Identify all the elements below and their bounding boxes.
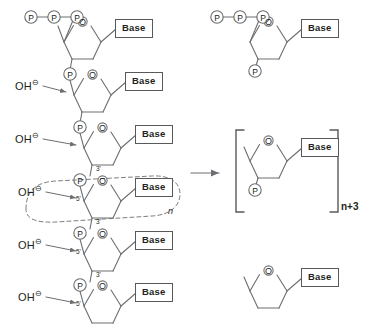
phosphate-gamma-label: P: [28, 13, 34, 23]
bond-3prime-5: [90, 271, 92, 282]
ring-oxygen-product-bottom: O: [265, 266, 272, 276]
repeat-unit-label: n: [168, 207, 173, 216]
hydroxide-label-1: OH⊖: [15, 79, 39, 92]
bond-base-product-bottom: [287, 278, 302, 291]
hydroxide-text-3: OH: [18, 186, 35, 198]
ring-oxygen-5: O: [99, 229, 106, 239]
bracket-left: [236, 130, 244, 212]
hydroxide-arrow-4: [46, 245, 76, 251]
hydroxide-text-5: OH: [18, 291, 35, 303]
bond-base-6: [121, 293, 136, 306]
hydroxide-arrow-2: [43, 139, 76, 145]
negative-charge-2: ⊖: [32, 131, 39, 140]
prime-label-3p-unit4: 3': [96, 219, 101, 226]
base-box-5: Base: [135, 231, 173, 250]
phosphate-alpha-label: P: [74, 13, 80, 23]
hydroxide-label-2: OH⊖: [15, 132, 39, 145]
bond-P-to-5prime-3: [80, 133, 84, 148]
product-phosphate-beta-label: P: [237, 13, 243, 23]
product-phosphate-3prime-label: P: [252, 67, 258, 77]
base-box-product-top: Base: [301, 19, 339, 38]
phosphate-link-label-2: P: [77, 123, 83, 133]
product-phosphate-alpha-label: P: [260, 13, 266, 23]
ring-oxygen-product-top: O: [265, 17, 272, 27]
ring-oxygen-3: O: [99, 123, 106, 133]
bond-base-1: [101, 29, 116, 42]
ring-oxygen-6: O: [99, 281, 106, 291]
bond-base-3: [121, 135, 136, 148]
bond-base-2: [111, 82, 126, 95]
base-box-4: Base: [135, 178, 173, 197]
phosphate-link-label-1: P: [67, 70, 73, 80]
bond-network: [25, 11, 338, 323]
bond-P-to-5prime-2: [70, 80, 74, 95]
negative-charge-1: ⊖: [32, 78, 39, 87]
ring-oxygen-1: O: [79, 17, 86, 27]
prime-label-5p-unit5: 5': [76, 249, 81, 256]
bracketed-phosphate-label: P: [252, 186, 258, 196]
prime-label-5p-unit4: 5': [76, 196, 81, 203]
product-phosphate-gamma-label: P: [214, 13, 220, 23]
base-box-1: Base: [115, 19, 153, 38]
hydroxide-label-3: OH⊖: [18, 185, 42, 198]
phosphate-beta-label: P: [51, 13, 57, 23]
hydroxide-arrow-1: [43, 86, 66, 92]
bond-base-product-top: [287, 29, 302, 42]
hydroxide-label-4: OH⊖: [18, 238, 42, 251]
prime-label-3p-unit5: 3': [96, 272, 101, 279]
negative-charge-5: ⊖: [35, 289, 42, 298]
hydroxide-text-1: OH: [15, 80, 32, 92]
bond-base-product-bracketed: [287, 148, 302, 161]
base-box-product-bottom: Base: [301, 268, 339, 287]
base-box-2: Base: [125, 72, 163, 91]
base-box-product-bracketed: Base: [301, 138, 339, 157]
bond-5prime-1: [58, 26, 64, 42]
bond-5prime-open-bracketed: [244, 147, 250, 161]
bracket-subscript-label: n+3: [341, 202, 359, 212]
hydroxide-arrow-3: [46, 192, 76, 198]
ring-oxygen-2: O: [89, 70, 96, 80]
bond-base-4: [121, 188, 136, 201]
base-box-3: Base: [135, 125, 173, 144]
prime-label-5p-unit6: 5': [76, 301, 81, 308]
hydroxide-text-2: OH: [15, 133, 32, 145]
ring-oxygen-product-bracketed: O: [265, 136, 272, 146]
base-box-6: Base: [135, 283, 173, 302]
phosphate-link-label-4: P: [77, 229, 83, 239]
phosphate-link-label-3: P: [77, 176, 83, 186]
hydroxide-arrow-5: [46, 297, 76, 303]
ring-oxygen-4: O: [99, 176, 106, 186]
bond-base-5: [121, 241, 136, 254]
prime-label-3p-unit3: 3': [96, 166, 101, 173]
negative-charge-3: ⊖: [35, 184, 42, 193]
hydroxide-text-4: OH: [18, 239, 35, 251]
diagram-canvas: O O O O O O O O O P P P P P P P P P P P …: [0, 0, 379, 324]
negative-charge-4: ⊖: [35, 237, 42, 246]
hydroxide-label-5: OH⊖: [18, 290, 42, 303]
phosphate-link-label-5: P: [77, 281, 83, 291]
bond-5prime-open-bottom: [244, 277, 250, 291]
bond-3prime-3: [90, 165, 92, 176]
